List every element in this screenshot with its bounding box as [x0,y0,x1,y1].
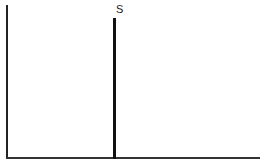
supply-curve-label: S [116,3,123,15]
x-axis [6,157,260,159]
supply-curve-vertical [113,18,116,159]
y-axis [6,5,8,159]
